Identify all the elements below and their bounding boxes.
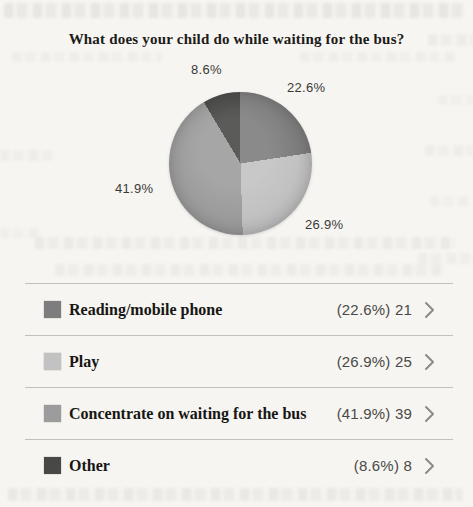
pie-slice-label-other: 8.6% bbox=[191, 62, 222, 77]
bleed-smudge bbox=[418, 253, 473, 264]
chevron-right-icon bbox=[424, 353, 435, 371]
page-title: What does your child do while waiting fo… bbox=[0, 31, 473, 48]
pie-chart bbox=[169, 92, 312, 235]
color-swatch bbox=[44, 405, 61, 422]
color-swatch bbox=[44, 457, 61, 474]
list-item-label: Other bbox=[69, 457, 354, 475]
chevron-right-icon bbox=[424, 405, 435, 423]
list-item-value: (41.9%) 39 bbox=[337, 405, 412, 422]
bleed-smudge bbox=[425, 145, 473, 156]
bleed-smudge bbox=[12, 52, 162, 62]
pie-slice-label-concentrate: 41.9% bbox=[115, 181, 153, 196]
bleed-smudge bbox=[55, 264, 445, 276]
pie-graphic bbox=[169, 92, 312, 235]
pie-slice-label-reading: 22.6% bbox=[287, 80, 325, 95]
chevron-right-icon bbox=[424, 301, 435, 319]
list-item-reading[interactable]: Reading/mobile phone (22.6%) 21 bbox=[25, 283, 453, 335]
bleed-smudge bbox=[300, 52, 458, 62]
bleed-smudge bbox=[438, 95, 473, 105]
pie-slice-label-play: 26.9% bbox=[305, 217, 343, 232]
bleed-smudge bbox=[430, 196, 470, 206]
color-swatch bbox=[44, 353, 61, 370]
list-item-other[interactable]: Other (8.6%) 8 bbox=[25, 439, 453, 491]
legend-list: Reading/mobile phone (22.6%) 21 Play (26… bbox=[25, 283, 453, 491]
bleed-smudge bbox=[0, 228, 40, 238]
color-swatch bbox=[44, 301, 61, 318]
bleed-smudge bbox=[0, 150, 55, 161]
bleed-smudge bbox=[35, 237, 455, 249]
list-item-label: Reading/mobile phone bbox=[69, 301, 337, 319]
list-item-value: (8.6%) 8 bbox=[354, 457, 412, 474]
list-item-concentrate[interactable]: Concentrate on waiting for the bus (41.9… bbox=[25, 387, 453, 439]
list-item-label: Play bbox=[69, 353, 337, 371]
bleed-smudge bbox=[4, 3, 466, 18]
list-item-play[interactable]: Play (26.9%) 25 bbox=[25, 335, 453, 387]
list-item-value: (26.9%) 25 bbox=[337, 353, 412, 370]
list-item-value: (22.6%) 21 bbox=[337, 301, 412, 318]
list-item-label: Concentrate on waiting for the bus bbox=[69, 405, 337, 423]
chevron-right-icon bbox=[424, 457, 435, 475]
